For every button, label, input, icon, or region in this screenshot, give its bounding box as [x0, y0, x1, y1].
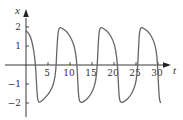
y-axis-label: x: [14, 4, 20, 16]
y-axis-arrow-icon: [23, 9, 29, 17]
axes: [5, 9, 171, 117]
x-tick-label: 10: [63, 68, 75, 78]
x-axis-label: t: [173, 64, 177, 76]
y-tick-label: 1: [15, 41, 21, 51]
y-tick-label: −2: [8, 98, 21, 108]
x-axis-arrow-icon: [163, 62, 171, 68]
y-tick-label: 2: [15, 22, 21, 32]
x-tick-label: 5: [44, 68, 50, 78]
line-chart: 51015202530−2−112 t x: [0, 0, 183, 120]
y-tick-label: −1: [8, 79, 21, 89]
x-tick-label: 15: [85, 68, 97, 78]
x-tick-label: 25: [129, 68, 141, 78]
